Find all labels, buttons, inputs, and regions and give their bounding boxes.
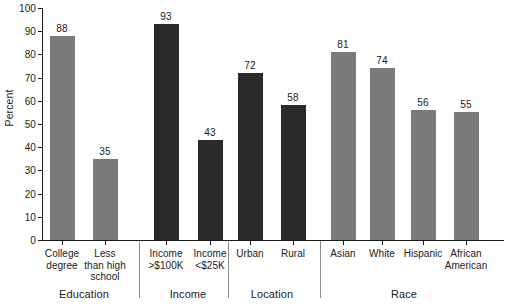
x-axis-tick-mark (62, 241, 63, 245)
x-axis-tick-mark (343, 241, 344, 245)
category-label-line: Urban (236, 248, 264, 260)
y-axis-tick-mark (38, 170, 42, 171)
category-label-line: degree (45, 260, 79, 272)
y-axis-tick-label: 70 (12, 72, 36, 83)
y-axis-tick-mark (38, 78, 42, 79)
category-label: AfricanAmerican (445, 248, 488, 271)
category-label-line: White (369, 248, 395, 260)
group-label: Location (251, 288, 293, 300)
bar-value-label: 58 (287, 92, 298, 103)
y-axis-tick-mark (38, 101, 42, 102)
y-axis-tick-mark (38, 194, 42, 195)
category-label-line: than high (84, 260, 126, 272)
category-label-line: African (445, 248, 488, 260)
y-axis-tick-label: 60 (12, 95, 36, 106)
y-axis-tick-mark (38, 8, 42, 9)
x-axis-tick-mark (293, 241, 294, 245)
category-label: Lessthan highschool (84, 248, 126, 283)
group-label: Education (59, 288, 109, 300)
category-label-line: Income (148, 248, 183, 260)
category-label-line: College (45, 248, 79, 260)
y-axis-tick-label: 20 (12, 188, 36, 199)
y-axis-tick-label: 80 (12, 49, 36, 60)
y-axis-tick-marks (38, 0, 42, 308)
bar-value-label: 93 (160, 11, 171, 22)
category-label-line: <$25K (193, 260, 226, 272)
bar-value-label: 88 (56, 23, 67, 34)
bar (154, 24, 179, 240)
y-axis-tick-label: 50 (12, 119, 36, 130)
category-label-line: Rural (281, 248, 305, 260)
x-axis-tick-mark (105, 241, 106, 245)
category-label: Collegedegree (45, 248, 79, 271)
category-label-line: Less (84, 248, 126, 260)
x-axis-tick-mark (250, 241, 251, 245)
category-label: Income<$25K (193, 248, 226, 271)
category-label: Rural (281, 248, 305, 260)
bar-value-label: 72 (244, 60, 255, 71)
bar-value-label: 56 (417, 97, 428, 108)
bar (331, 52, 356, 240)
x-axis-line (42, 240, 504, 241)
group-separator (320, 241, 321, 298)
x-axis-tick-mark (382, 241, 383, 245)
category-label-line: >$100K (148, 260, 183, 272)
y-axis-tick-label: 100 (12, 3, 36, 14)
bar-value-label: 35 (99, 146, 110, 157)
y-axis-tick-label: 90 (12, 26, 36, 37)
x-axis-tick-mark (210, 241, 211, 245)
group-separator (228, 241, 229, 298)
bar (198, 140, 223, 240)
y-axis-tick-mark (38, 124, 42, 125)
x-axis-tick-mark (466, 241, 467, 245)
y-axis-tick-mark (38, 54, 42, 55)
y-axis-line (42, 8, 43, 241)
category-label-line: Hispanic (404, 248, 443, 260)
bar (50, 36, 75, 240)
category-label: Hispanic (404, 248, 443, 260)
y-axis-tick-mark (38, 147, 42, 148)
bar (281, 105, 306, 240)
bar-value-label: 81 (337, 39, 348, 50)
bar-value-label: 74 (376, 55, 387, 66)
category-label: White (369, 248, 395, 260)
y-axis-tick-mark (38, 217, 42, 218)
y-axis-tick-label: 40 (12, 142, 36, 153)
x-axis-tick-mark (423, 241, 424, 245)
category-label: Income>$100K (148, 248, 183, 271)
bar (93, 159, 118, 240)
y-axis-tick-label: 0 (12, 235, 36, 246)
y-axis-tick-labels: 0102030405060708090100 (12, 0, 36, 308)
group-label: Income (170, 288, 207, 300)
category-label-line: school (84, 271, 126, 283)
x-axis-tick-mark (166, 241, 167, 245)
y-axis-tick-label: 10 (12, 211, 36, 222)
bar-chart: Percent 0102030405060708090100 883593437… (0, 0, 507, 308)
bar (238, 73, 263, 240)
y-axis-tick-mark (38, 31, 42, 32)
category-label-line: Asian (330, 248, 355, 260)
y-axis-tick-label: 30 (12, 165, 36, 176)
group-separator (139, 241, 140, 298)
category-label: Asian (330, 248, 355, 260)
category-label: Urban (236, 248, 264, 260)
bar (454, 112, 479, 240)
bar (411, 110, 436, 240)
bar-value-label: 43 (204, 127, 215, 138)
bar-value-label: 55 (460, 99, 471, 110)
category-label-line: American (445, 260, 488, 272)
bar (370, 68, 395, 240)
group-label: Race (391, 288, 417, 300)
category-label-line: Income (193, 248, 226, 260)
